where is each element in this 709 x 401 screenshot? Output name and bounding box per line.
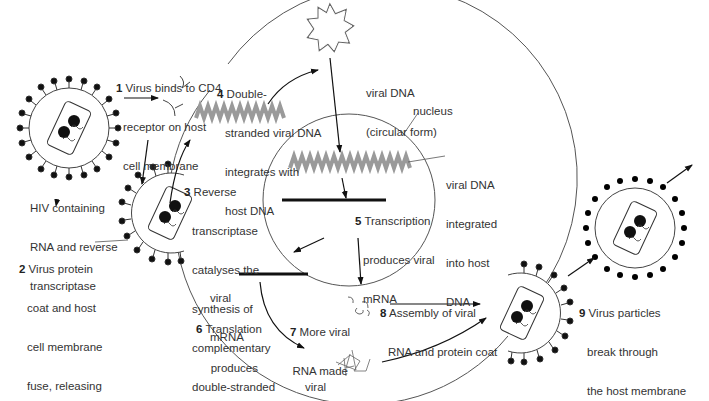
- step-text: cell membrane: [19, 341, 111, 354]
- step-text: Assembly of viral: [389, 307, 476, 319]
- step-text: break through: [579, 346, 686, 359]
- step-text: the host membrane: [579, 385, 686, 398]
- step-text: produces: [196, 362, 258, 375]
- step-text: RNA and protein coat: [380, 346, 497, 359]
- step-number: 7: [290, 326, 296, 338]
- step-number: 1: [116, 82, 122, 94]
- step-number: 9: [579, 307, 585, 319]
- step-9-label: 9 Virus particles break through the host…: [579, 281, 686, 401]
- step-4-label: 4 Double- stranded viral DNA integrates …: [217, 62, 322, 231]
- label-text: viral DNA: [366, 87, 437, 100]
- label-text: HIV containing: [30, 202, 118, 215]
- assembling-virus-icon: [499, 261, 573, 365]
- label-text: (circular form): [366, 126, 437, 139]
- step-text: Virus protein: [29, 263, 93, 275]
- step-text: produces viral: [355, 254, 435, 267]
- label-text: into host: [446, 257, 497, 270]
- step-text: host DNA: [217, 205, 322, 218]
- viral-proteins-label: viral proteins: [305, 355, 346, 401]
- step-number: 8: [380, 307, 386, 319]
- label-text: viral: [305, 381, 346, 394]
- step-text: Double-: [227, 88, 267, 100]
- step-text: Virus binds to CD4: [126, 82, 222, 94]
- integrated-dna-pointer: [408, 156, 445, 162]
- label-text: viral DNA: [446, 179, 497, 192]
- step-number: 5: [355, 215, 361, 227]
- step-text: Translation: [205, 323, 261, 335]
- step-text: Transcription: [364, 215, 430, 227]
- step-text: Virus particles: [589, 307, 661, 319]
- step-number: 4: [217, 88, 223, 100]
- label-text: integrated: [446, 218, 497, 231]
- hiv-virus-icon: [17, 76, 121, 180]
- step-text: receptor on host: [116, 121, 221, 134]
- step-6-label: 6 Translation produces proteins for vira…: [196, 297, 258, 401]
- step-text: More viral: [300, 326, 350, 338]
- step-text: coat and host: [19, 302, 111, 315]
- released-virus-icon: [583, 176, 687, 280]
- step-text: stranded viral DNA: [217, 127, 322, 140]
- circular-viral-dna-icon: [309, 6, 352, 50]
- step-text: fuse, releasing: [19, 380, 111, 393]
- step-2-label: 2 Virus protein coat and host cell membr…: [19, 237, 111, 401]
- step-number: 6: [196, 323, 202, 335]
- step-number: 2: [19, 263, 25, 275]
- step-8-label: 8 Assembly of viral RNA and protein coat: [380, 281, 497, 372]
- step-text: integrates with: [217, 166, 322, 179]
- step-number: 3: [184, 186, 190, 198]
- nucleus-label: nucleus: [413, 105, 453, 118]
